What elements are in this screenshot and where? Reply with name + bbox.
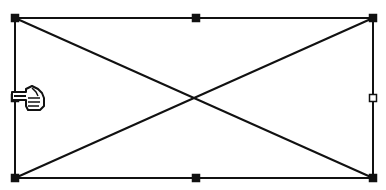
- resize-handle-top-right[interactable]: [370, 15, 377, 22]
- resize-handle-bottom-right[interactable]: [370, 175, 377, 182]
- resize-handle-bottom-middle[interactable]: [193, 175, 200, 182]
- drawing-canvas[interactable]: [0, 0, 386, 190]
- pointing-hand-icon: [12, 86, 44, 110]
- resize-handle-top-middle[interactable]: [193, 15, 200, 22]
- resize-handle-middle-right[interactable]: [370, 95, 377, 102]
- resize-handle-bottom-left[interactable]: [12, 175, 19, 182]
- selected-shape[interactable]: [15, 18, 373, 178]
- resize-handle-top-left[interactable]: [12, 15, 19, 22]
